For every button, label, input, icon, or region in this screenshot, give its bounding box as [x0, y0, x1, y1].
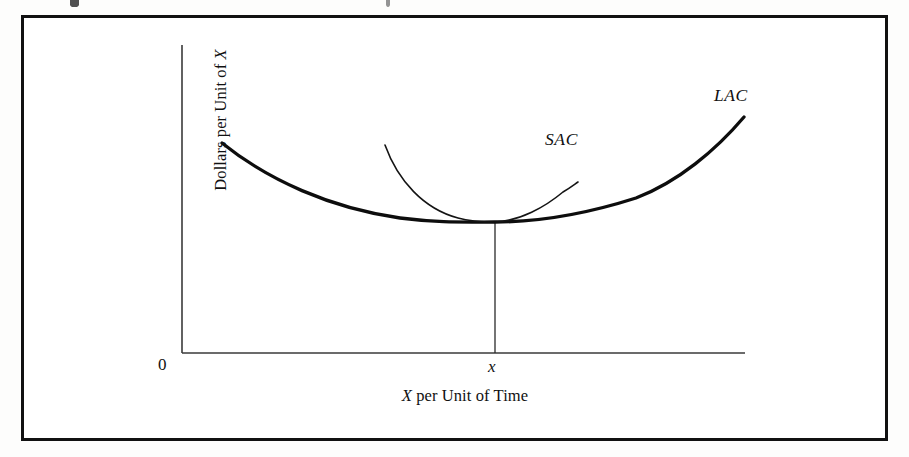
x-axis-label-suffix: per Unit of Time	[412, 386, 528, 405]
figure-border	[21, 15, 888, 441]
caption-descender-remnant	[70, 0, 79, 7]
caption-descender-remnant	[386, 0, 390, 7]
sac-curve-label: SAC	[545, 129, 578, 150]
y-axis-label-variable: X	[211, 49, 230, 59]
lac-curve-label: LAC	[714, 85, 748, 106]
x-axis-label-var: X	[402, 386, 412, 405]
figure-root: Dollars per Unit of X LACX per Unit of T…	[0, 0, 909, 457]
x-axis-label: LACX per Unit of Time	[320, 386, 610, 406]
origin-label: 0	[158, 355, 167, 375]
y-axis-label: Dollars per Unit of X	[211, 20, 231, 220]
y-axis-label-prefix: Dollars per Unit of	[211, 59, 230, 190]
x-tick-label: x	[488, 357, 496, 377]
